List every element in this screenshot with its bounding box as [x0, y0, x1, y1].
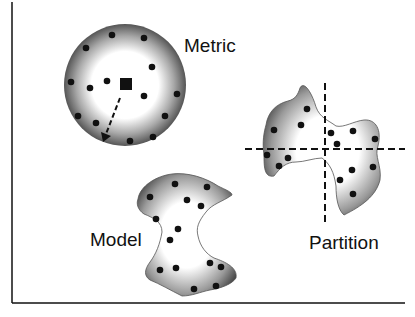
- data-point: [337, 177, 344, 184]
- data-point: [213, 283, 220, 290]
- data-point: [104, 78, 111, 85]
- data-point: [93, 120, 100, 127]
- data-point: [141, 35, 148, 42]
- model-blob: [137, 174, 236, 296]
- partition-blob: [263, 86, 380, 215]
- model-group: Model: [90, 174, 236, 296]
- data-point: [191, 286, 198, 293]
- diagram: Metric Partition Model: [0, 0, 415, 317]
- data-point: [174, 91, 181, 98]
- data-point: [264, 152, 271, 159]
- data-point: [75, 113, 82, 120]
- model-label: Model: [90, 229, 142, 250]
- data-point: [68, 79, 75, 86]
- data-point: [150, 134, 157, 141]
- data-point: [87, 85, 94, 92]
- data-point: [276, 163, 283, 170]
- data-point: [109, 32, 116, 39]
- data-point: [349, 167, 356, 174]
- metric-label: Metric: [184, 35, 236, 56]
- data-point: [141, 93, 148, 100]
- data-point: [328, 130, 335, 137]
- data-point: [372, 136, 379, 143]
- data-point: [370, 164, 377, 171]
- data-point: [167, 237, 174, 244]
- data-point: [83, 45, 90, 52]
- data-point: [204, 184, 211, 191]
- data-point: [175, 226, 182, 233]
- data-point: [285, 155, 292, 162]
- metric-center-marker: [120, 78, 132, 90]
- partition-label: Partition: [309, 232, 379, 253]
- data-point: [334, 141, 341, 148]
- data-point: [350, 128, 357, 135]
- partition-group: Partition: [245, 83, 405, 253]
- data-point: [127, 138, 134, 145]
- data-point: [298, 122, 305, 129]
- metric-group: Metric: [64, 24, 236, 146]
- data-point: [149, 64, 156, 71]
- data-point: [271, 127, 278, 134]
- data-point: [153, 216, 160, 223]
- data-point: [207, 260, 214, 267]
- data-point: [350, 191, 357, 198]
- diagram-canvas: Metric Partition Model: [0, 0, 415, 317]
- data-point: [162, 113, 169, 120]
- data-point: [184, 197, 191, 204]
- data-point: [147, 194, 154, 201]
- data-point: [173, 265, 180, 272]
- data-point: [157, 267, 164, 274]
- data-point: [198, 203, 205, 210]
- data-point: [218, 264, 225, 271]
- data-point: [172, 181, 179, 188]
- data-point: [304, 106, 311, 113]
